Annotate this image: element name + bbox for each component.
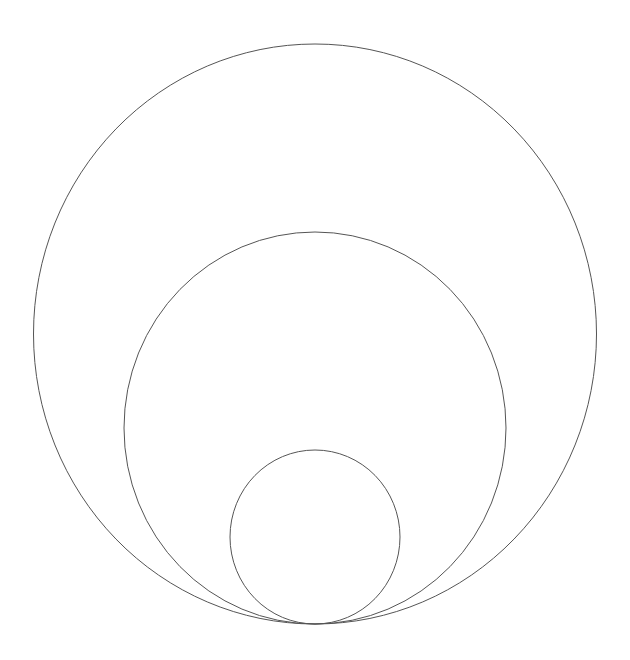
middle-circle — [124, 232, 506, 624]
outer-circle — [34, 44, 597, 624]
circles-group — [34, 44, 597, 624]
inner-circle — [230, 450, 400, 624]
nested-circles-diagram — [0, 0, 630, 660]
